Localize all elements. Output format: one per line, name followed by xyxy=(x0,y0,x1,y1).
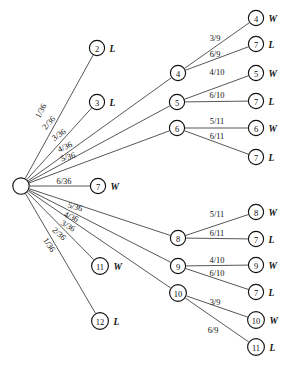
node-label: 7 xyxy=(254,153,258,163)
node-label: 11 xyxy=(96,262,104,272)
outcome-label: L xyxy=(268,288,275,298)
tree-edge xyxy=(29,131,169,183)
tree-node: 2L xyxy=(89,40,115,55)
tree-node: 8 xyxy=(170,230,185,245)
edge-probability-label: 6/9 xyxy=(208,326,219,335)
node-label: 8 xyxy=(254,208,258,218)
edge-probability-label: 6/9 xyxy=(210,50,221,59)
outcome-label: L xyxy=(268,343,275,353)
tree-node: 6W xyxy=(248,120,277,135)
outcome-label: L xyxy=(109,98,116,108)
tree-node: 10W xyxy=(248,312,279,329)
tree-edge xyxy=(186,265,248,266)
outcome-label: L xyxy=(112,317,119,327)
tree-node: 9 xyxy=(170,258,185,273)
tree-node: 11W xyxy=(92,258,123,275)
tree-edge xyxy=(185,23,250,69)
outcome-label: L xyxy=(109,44,116,54)
tree-node: 7L xyxy=(248,36,274,51)
node-label: 6 xyxy=(175,124,179,134)
node-label: 7 xyxy=(254,235,258,245)
outcome-label: W xyxy=(111,182,120,192)
edge-probability-label: 5/11 xyxy=(210,210,225,219)
edge-probability-label: 4/10 xyxy=(210,256,225,265)
node-label: 6 xyxy=(254,124,258,134)
outcome-label: L xyxy=(268,153,275,163)
tree-root-node xyxy=(13,178,29,194)
edge-probability-label: 2/36 xyxy=(41,114,58,131)
node-label: 5 xyxy=(254,69,258,79)
tree-node: 5W xyxy=(248,65,277,80)
tree-node: 11L xyxy=(248,339,276,356)
edge-probability-label: 3/9 xyxy=(210,298,221,307)
node-label: 7 xyxy=(254,40,258,50)
tree-node: 9W xyxy=(248,257,277,272)
node-label: 8 xyxy=(176,234,180,244)
tree-node: 4 xyxy=(170,65,185,80)
nodes-layer: 2L3L4567W891011W12L4W7L5W7L6W7L8W7L9W7L1… xyxy=(13,10,279,355)
tree-node: 4W xyxy=(248,10,277,25)
tree-canvas: 1/362/363/364/365/366/365/364/363/362/36… xyxy=(0,0,289,365)
tree-node: 7W xyxy=(90,178,119,193)
edge-labels-layer: 1/362/363/364/365/366/365/364/363/362/36… xyxy=(34,34,225,335)
node-label: 9 xyxy=(254,261,258,271)
tree-node: 5 xyxy=(169,94,184,109)
tree-edge xyxy=(185,101,248,102)
tree-node: 6 xyxy=(169,120,184,135)
outcome-label: W xyxy=(269,261,278,271)
edge-probability-label: 1/36 xyxy=(34,102,49,119)
node-label: 7 xyxy=(254,288,258,298)
node-label: 5 xyxy=(175,98,179,108)
node-label: 7 xyxy=(254,97,258,107)
tree-node: 3L xyxy=(89,94,115,109)
tree-edge xyxy=(28,78,171,181)
edge-probability-label: 6/10 xyxy=(210,91,225,100)
edge-probability-label: 6/10 xyxy=(210,269,225,278)
outcome-label: W xyxy=(269,124,278,134)
edge-probability-label: 3/9 xyxy=(210,34,221,43)
outcome-label: W xyxy=(269,14,278,24)
tree-node: 8W xyxy=(248,204,277,219)
outcome-label: L xyxy=(268,235,275,245)
tree-node: 7L xyxy=(248,284,274,299)
edge-probability-label: 3/36 xyxy=(50,127,67,143)
node-label: 2 xyxy=(95,44,99,54)
tree-edge xyxy=(29,189,170,236)
node-label: 10 xyxy=(174,289,183,299)
node-label: 9 xyxy=(176,262,180,272)
edge-probability-label: 6/36 xyxy=(57,177,72,186)
probability-tree-diagram: 1/362/363/364/365/366/365/364/363/362/36… xyxy=(0,0,289,365)
outcome-label: W xyxy=(269,316,278,326)
tree-node: 12L xyxy=(92,313,120,330)
outcome-label: W xyxy=(269,208,278,218)
tree-node: 7L xyxy=(248,149,274,164)
tree-node: 10 xyxy=(170,285,187,302)
node-label: 12 xyxy=(96,317,105,327)
outcome-label: W xyxy=(113,262,122,272)
tree-edge xyxy=(25,194,95,314)
node-label: 10 xyxy=(252,316,261,326)
node-circle xyxy=(13,178,29,194)
outcome-label: W xyxy=(269,69,278,79)
outcome-label: L xyxy=(268,40,275,50)
edge-probability-label: 6/11 xyxy=(210,132,225,141)
node-label: 11 xyxy=(252,343,260,353)
edge-probability-label: 5/11 xyxy=(210,117,225,126)
tree-node: 7L xyxy=(248,93,274,108)
node-label: 7 xyxy=(96,182,100,192)
edge-probability-label: 1/36 xyxy=(41,236,57,253)
tree-edge xyxy=(186,238,248,239)
node-label: 3 xyxy=(95,98,99,108)
tree-node: 7L xyxy=(248,231,274,246)
outcome-label: L xyxy=(268,97,275,107)
edge-probability-label: 6/11 xyxy=(210,229,225,238)
edge-probability-label: 4/10 xyxy=(210,68,225,77)
